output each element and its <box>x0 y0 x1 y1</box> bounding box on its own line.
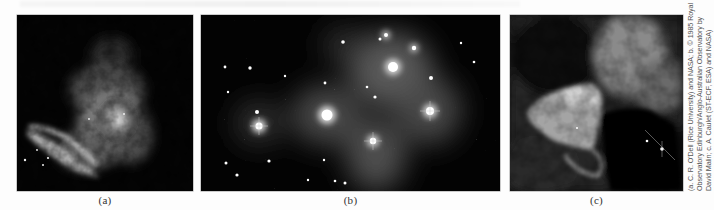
photo-panel-b <box>201 15 500 191</box>
credit-line-2: Observatory Edinburgh/Anglo-Australian O… <box>695 1 704 191</box>
photo-panel-a <box>17 15 193 191</box>
credit-line-1: (a. C. R. O'Dell (Rice University) and N… <box>686 1 695 191</box>
panel-label-b: (b) <box>201 194 500 206</box>
panel-label-c: (c) <box>510 194 683 206</box>
photo-credit: (a. C. R. O'Dell (Rice University) and N… <box>686 1 714 191</box>
star-cluster-image-b <box>201 15 500 191</box>
photo-panel-c <box>510 15 683 191</box>
credit-line-3: David Malin; c. A. Caulet (ST-ECF, ESA) … <box>704 1 713 191</box>
bleed-through-text <box>20 1 520 7</box>
panel-label-a: (a) <box>17 194 193 206</box>
nebula-image-a <box>17 15 193 191</box>
nebula-image-c <box>510 15 683 191</box>
